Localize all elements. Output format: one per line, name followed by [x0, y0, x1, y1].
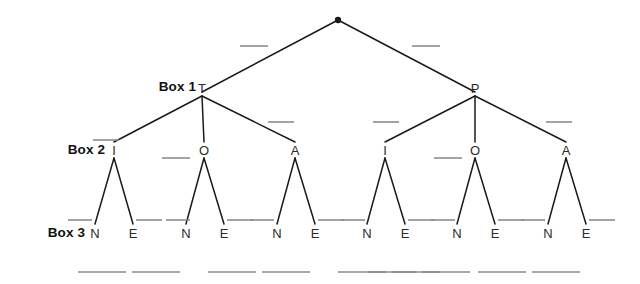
tree-edge [457, 158, 475, 224]
tree-node-e: E [311, 227, 320, 240]
root-node-group [335, 17, 341, 23]
tree-node-p: P [471, 82, 480, 95]
tree-edge [204, 158, 224, 224]
tree-edge [202, 96, 295, 142]
tree-node-n: N [452, 227, 461, 240]
tree-node-o: O [199, 144, 209, 157]
tree-node-a: A [562, 144, 571, 157]
tree-edge [202, 20, 338, 92]
tree-diagram-canvas: TPIOAIOANENENENENENE Box 1Box 2Box 3 [0, 0, 640, 284]
tree-edge [385, 96, 475, 142]
blank-lines-group [68, 46, 615, 220]
row-label-box-3: Box 3 [48, 226, 85, 240]
tree-edge [114, 96, 202, 142]
tree-edge [114, 158, 133, 224]
tree-node-n: N [272, 227, 281, 240]
tree-edge [475, 158, 495, 224]
tree-node-e: E [491, 227, 500, 240]
tree-node-a: A [291, 144, 300, 157]
tree-edge [475, 96, 566, 142]
tree-edge [95, 158, 114, 224]
row-label-box-1: Box 1 [159, 80, 196, 94]
tree-edge [548, 158, 566, 224]
tree-edge [186, 158, 204, 224]
tree-node-e: E [220, 227, 229, 240]
tree-node-e: E [401, 227, 410, 240]
row-label-box-2: Box 2 [68, 143, 105, 157]
tree-node-i: I [112, 144, 116, 157]
tree-node-t: T [198, 82, 206, 95]
tree-node-o: O [470, 144, 480, 157]
tree-node-e: E [129, 227, 138, 240]
tree-node-n: N [543, 227, 552, 240]
tree-edge [202, 96, 204, 142]
tree-node-i: I [383, 144, 387, 157]
tree-edges-group [95, 20, 586, 224]
tree-edge [385, 158, 405, 224]
tree-edge [295, 158, 315, 224]
tree-edge [566, 158, 586, 224]
root-node-dot [335, 17, 341, 23]
tree-node-n: N [90, 227, 99, 240]
tree-edge [367, 158, 385, 224]
tree-edge [277, 158, 295, 224]
tree-node-n: N [362, 227, 371, 240]
tree-node-e: E [582, 227, 591, 240]
tree-edge [338, 20, 475, 92]
tree-node-n: N [181, 227, 190, 240]
